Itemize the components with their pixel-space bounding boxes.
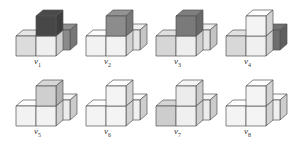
label-subscript: 2: [108, 62, 111, 68]
label-subscript: 4: [248, 62, 251, 68]
figure-label-v7: v7: [174, 126, 181, 138]
top-cube-v1: [36, 10, 63, 36]
label-subscript: 3: [178, 62, 181, 68]
label-subscript: 6: [108, 132, 111, 138]
figure-label-v6: v6: [104, 126, 111, 138]
top-cube-v7: [176, 80, 203, 106]
top-cube-v3: [176, 10, 203, 36]
top-cube-v8: [246, 80, 273, 106]
cube-figure-v2: v2: [82, 4, 152, 76]
cube-figure-v7: v7: [152, 74, 222, 146]
cube-figure-v4: v4: [222, 4, 292, 76]
cube-figure-v8: v8: [222, 74, 292, 146]
label-subscript: 1: [38, 62, 41, 68]
top-cube-v6: [106, 80, 133, 106]
figure-label-v5: v5: [34, 126, 41, 138]
label-subscript: 8: [248, 132, 251, 138]
figure-label-v8: v8: [244, 126, 251, 138]
figure-label-v4: v4: [244, 56, 251, 68]
figure-label-v1: v1: [34, 56, 41, 68]
cube-figure-v6: v6: [82, 74, 152, 146]
cube-figure-v3: v3: [152, 4, 222, 76]
top-cube-v4: [246, 10, 273, 36]
label-subscript: 5: [38, 132, 41, 138]
label-subscript: 7: [178, 132, 181, 138]
figure-label-v2: v2: [104, 56, 111, 68]
top-cube-v2: [106, 10, 133, 36]
figure-label-v3: v3: [174, 56, 181, 68]
cube-figure-v1: v1: [12, 4, 82, 76]
cube-figure-v5: v5: [12, 74, 82, 146]
top-cube-v5: [36, 80, 63, 106]
